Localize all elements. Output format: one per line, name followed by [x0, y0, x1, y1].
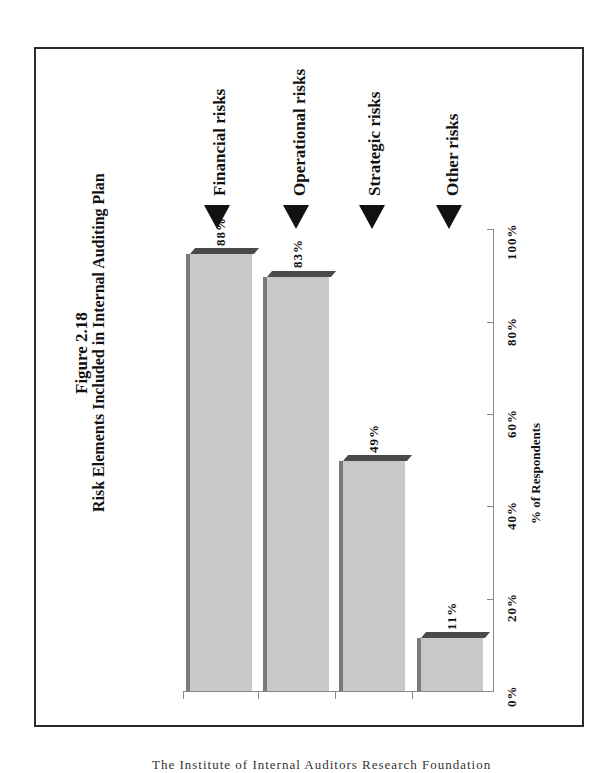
value-axis-title: % of Respondents	[528, 423, 544, 524]
value-tick	[487, 322, 494, 323]
value-tick	[487, 599, 494, 600]
triangle-marker-icon	[436, 205, 462, 229]
category-axis-line	[183, 691, 494, 692]
tick-label-0: 0%	[504, 686, 520, 708]
tick-label-80: 80%	[504, 317, 520, 346]
bar-other	[417, 638, 483, 691]
category-label-other: Other risks	[443, 114, 463, 196]
category-tick	[183, 691, 184, 699]
tick-label-60: 60%	[504, 409, 520, 438]
value-tick	[487, 506, 494, 507]
bar-strategic	[339, 461, 405, 691]
value-tick	[487, 414, 494, 415]
triangle-marker-icon	[283, 205, 309, 229]
category-tick	[258, 691, 259, 699]
value-label-financial: 88%	[213, 217, 229, 246]
category-label-operational: Operational risks	[290, 69, 310, 196]
triangle-marker-icon	[359, 205, 385, 229]
value-label-strategic: 49%	[366, 424, 382, 453]
value-label-other: 11%	[444, 602, 460, 630]
category-label-financial: Financial risks	[210, 89, 230, 196]
figure-caption: Risk Elements Included in Internal Audit…	[90, 173, 108, 512]
bar-financial	[186, 254, 252, 691]
category-tick	[335, 691, 336, 699]
value-axis-line	[493, 229, 494, 692]
tick-label-40: 40%	[504, 501, 520, 530]
value-tick	[487, 229, 494, 230]
tick-label-20: 20%	[504, 593, 520, 622]
category-label-strategic: Strategic risks	[365, 92, 385, 196]
footer-text: The Institute of Internal Auditors Resea…	[152, 757, 491, 773]
value-label-operational: 83%	[290, 239, 306, 268]
tick-label-100: 100%	[504, 224, 520, 261]
figure-number: Figure 2.18	[72, 312, 92, 394]
bar-operational	[263, 277, 329, 691]
value-tick	[487, 691, 494, 692]
category-tick	[412, 691, 413, 699]
